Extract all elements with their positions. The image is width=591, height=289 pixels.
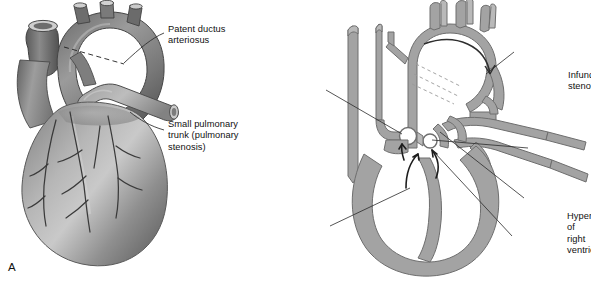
label-patent-ductus-arteriosus-a: Patent ductus arteriosus [168,24,226,47]
label-hypertrophy-right-ventricle: Hypertrophy of right ventricle [567,211,591,257]
svc-atrial-junction [376,120,402,140]
panel-b-artwork [290,0,591,289]
panel-a-artwork [0,0,300,289]
label-small-pulmonary-trunk: Small pulmonary trunk (pulmonary stenosi… [168,119,239,153]
panel-letter-a: A [8,261,16,273]
panel-a: Patent ductus arteriosus Small pulmonary… [0,0,300,289]
brachiocephalic-branches [386,32,408,64]
label-infundibular-stenosis: Infundibular stenosis [568,70,591,93]
panel-b: Infundibular stenosis Hypertrophy of rig… [290,0,591,289]
pulmonary-artery-dashed [412,64,460,104]
figure-tetralogy-of-fallot: Patent ductus arteriosus Small pulmonary… [0,0,591,289]
